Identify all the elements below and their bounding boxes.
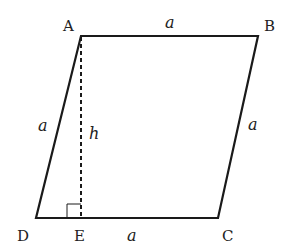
vertex-label-C: C <box>222 227 233 245</box>
height-label-h: h <box>89 124 99 143</box>
right-angle-marker <box>67 204 81 218</box>
vertex-label-D: D <box>17 227 29 245</box>
rhombus-ABCD <box>36 36 258 218</box>
side-label-AB: a <box>165 13 175 32</box>
side-label-EC: a <box>127 226 137 245</box>
side-label-BC: a <box>248 115 258 134</box>
rhombus-diagram: A B C D E a a a a h <box>0 0 295 251</box>
vertex-label-A: A <box>62 17 74 35</box>
side-label-AD: a <box>38 116 48 135</box>
vertex-label-E: E <box>74 227 85 245</box>
vertex-label-B: B <box>264 17 275 35</box>
